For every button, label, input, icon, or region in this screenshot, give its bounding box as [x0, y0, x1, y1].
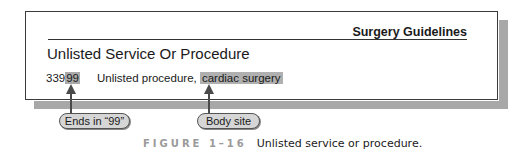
figure-caption: FIGURE 1–16Unlisted service or procedure…	[143, 137, 422, 150]
panel-shadow-right	[499, 20, 508, 109]
arrow-up-icon	[204, 84, 214, 94]
callout-arrow-code-shaft	[70, 92, 72, 114]
guideline-panel: Surgery Guidelines Unlisted Service Or P…	[25, 11, 498, 100]
header-divider	[48, 39, 467, 40]
body-site-highlight: cardiac surgery	[200, 72, 283, 84]
callout-arrow-bodysite-shaft	[208, 92, 210, 114]
callout-ends-in-99: Ends in “99”	[59, 113, 130, 129]
section-title: Unlisted Service Or Procedure	[47, 45, 250, 62]
figure-caption-text: Unlisted service or procedure.	[257, 137, 422, 150]
panel-header-title: Surgery Guidelines	[352, 25, 467, 39]
figure-label: FIGURE 1–16	[143, 138, 247, 149]
code-entry: 33999Unlisted procedure, cardiac surgery	[46, 72, 283, 84]
callout-body-site: Body site	[197, 113, 260, 129]
description-prefix: Unlisted procedure,	[97, 72, 200, 84]
procedure-code: 33999	[46, 72, 97, 84]
panel-shadow-bottom	[34, 101, 508, 109]
arrow-up-icon	[66, 84, 76, 94]
code-suffix-highlight: 99	[65, 72, 80, 84]
code-prefix: 339	[46, 72, 65, 84]
